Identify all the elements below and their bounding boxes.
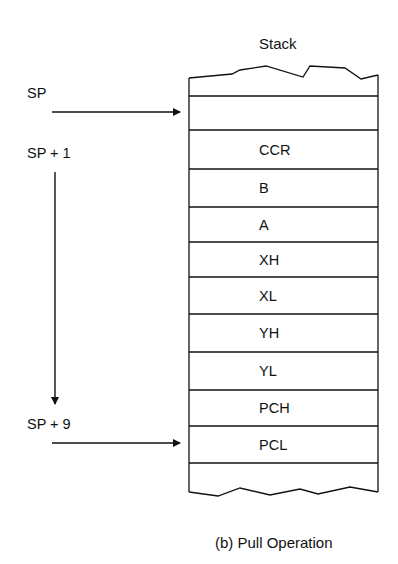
stack-top-torn-edge [189,66,378,79]
stack-cell-yh: YH [189,326,379,341]
sp-plus-9-label: SP + 9 [27,417,71,432]
sp-plus-1-label: SP + 1 [27,146,71,161]
stack-bottom-torn-edge [189,487,378,496]
stack-cell-pch: PCH [189,401,379,416]
stack-cell-ccr: CCR [189,143,379,158]
stack-cell-b: B [189,181,379,196]
stack-cell-yl: YL [189,364,379,379]
figure-caption: (b) Pull Operation [215,535,333,550]
stack-diagram-graphics [0,0,398,564]
stack-cell-xl: XL [189,289,379,304]
sp-label: SP [27,86,46,101]
stack-title: Stack [259,36,297,51]
stack-cell-a: A [189,218,379,233]
stack-cell-xh: XH [189,253,379,268]
stack-cell-pcl: PCL [189,438,379,453]
